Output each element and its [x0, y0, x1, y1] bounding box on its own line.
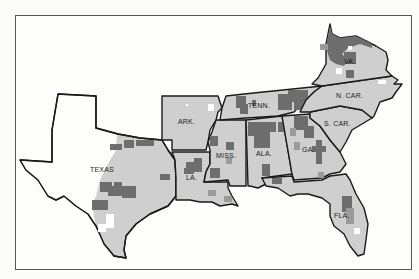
label-texas: TEXAS: [90, 166, 114, 173]
label-mississippi: MISS.: [216, 152, 236, 159]
label-tennessee: TENN.: [248, 102, 270, 109]
state-florida: FLA.: [262, 174, 368, 256]
label-alabama: ALA.: [256, 150, 272, 157]
label-florida: FLA.: [334, 212, 350, 219]
southern-states-map: TEXAS ARK. LA. MISS. TENN.: [0, 0, 419, 279]
label-south-carolina: S. CAR.: [324, 120, 351, 127]
label-georgia: GA.: [302, 146, 315, 153]
label-virginia: VA.: [344, 58, 355, 65]
label-arkansas: ARK.: [178, 118, 195, 125]
label-louisiana: LA.: [186, 174, 197, 181]
state-virginia: VA.: [312, 24, 392, 86]
state-texas: TEXAS: [20, 94, 176, 258]
label-north-carolina: N. CAR.: [336, 92, 363, 99]
